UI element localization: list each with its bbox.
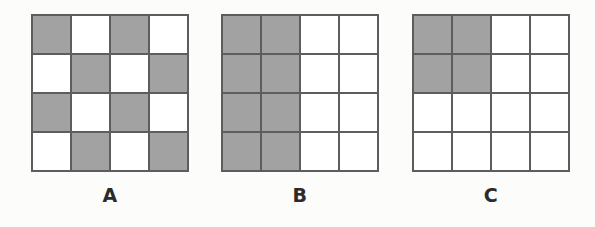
grid-cell [340, 16, 377, 53]
grid-cell [111, 133, 148, 170]
grid-cell [72, 94, 109, 131]
grid-cell [492, 55, 529, 92]
grid-cell [223, 133, 260, 170]
grid-cell [414, 16, 451, 53]
grid-cell [492, 133, 529, 170]
grid-cell [492, 16, 529, 53]
grid-cell [414, 55, 451, 92]
grid-cell [340, 94, 377, 131]
grid-cell [531, 16, 568, 53]
grid-cell [223, 16, 260, 53]
grid-cell [223, 55, 260, 92]
grid-c [412, 14, 570, 172]
grid-b [221, 14, 379, 172]
grid-cell [301, 133, 338, 170]
figure-row: A B C [0, 0, 595, 227]
grid-cell [492, 94, 529, 131]
grid-cell [531, 133, 568, 170]
grid-cell [301, 16, 338, 53]
grid-cell [33, 133, 70, 170]
figure-a-label: A [31, 184, 189, 206]
grid-cell [150, 55, 187, 92]
grid-cell [111, 94, 148, 131]
grid-cell [111, 55, 148, 92]
figure-b-label: B [221, 184, 379, 206]
figure-c-label: C [412, 184, 570, 206]
grid-cell [453, 55, 490, 92]
grid-cell [531, 55, 568, 92]
grid-cell [72, 55, 109, 92]
grid-cell [301, 94, 338, 131]
grid-cell [453, 133, 490, 170]
figure-a: A [31, 14, 189, 172]
grid-cell [262, 16, 299, 53]
grid-cell [453, 16, 490, 53]
grid-cell [150, 94, 187, 131]
grid-cell [223, 94, 260, 131]
grid-cell [150, 133, 187, 170]
grid-cell [262, 133, 299, 170]
grid-cell [33, 94, 70, 131]
grid-cell [72, 133, 109, 170]
grid-cell [340, 55, 377, 92]
grid-cell [414, 94, 451, 131]
grid-cell [33, 16, 70, 53]
grid-cell [531, 94, 568, 131]
figure-c: C [412, 14, 570, 172]
figure-b: B [221, 14, 379, 172]
grid-cell [262, 94, 299, 131]
grid-cell [111, 16, 148, 53]
grid-cell [301, 55, 338, 92]
grid-cell [414, 133, 451, 170]
grid-cell [72, 16, 109, 53]
grid-cell [262, 55, 299, 92]
grid-cell [150, 16, 187, 53]
grid-a [31, 14, 189, 172]
grid-cell [33, 55, 70, 92]
grid-cell [340, 133, 377, 170]
grid-cell [453, 94, 490, 131]
